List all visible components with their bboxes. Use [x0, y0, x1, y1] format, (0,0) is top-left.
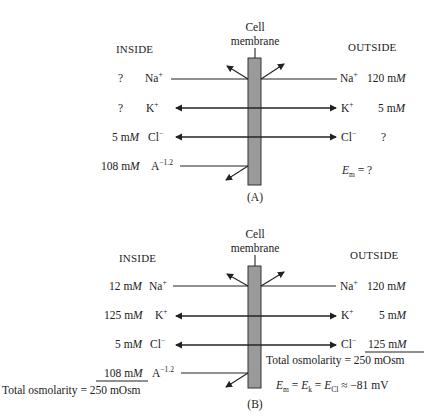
na-blocked-arrow-left	[227, 274, 248, 286]
membrane-label-line2: membrane	[231, 242, 280, 254]
panel-b: Cell membrane INSIDE OUTSIDE 12 mM Na+ N…	[2, 228, 424, 411]
k-ion-inside: K+	[155, 307, 168, 321]
na-blocked-arrow-right	[261, 64, 284, 79]
na-ion-outside: Na+	[340, 278, 358, 292]
na-outside-conc: 120 mM	[367, 280, 407, 292]
k-inside-conc: ?	[118, 102, 123, 114]
inside-total-osmolarity: Total osmolarity = 250 mOsm	[2, 384, 141, 397]
outside-header: OUTSIDE	[350, 249, 399, 261]
cl-ion-outside: Cl−	[341, 336, 356, 350]
cl-ion-inside: Cl−	[150, 336, 165, 350]
na-ion-outside: Na+	[340, 70, 358, 84]
cl-inside-conc: 5 mM	[115, 338, 144, 350]
membrane-diagram: Cell membrane INSIDE OUTSIDE ? Na+ Na+ 1…	[0, 0, 447, 417]
a-inside-conc: 108 mM	[104, 367, 144, 379]
na-blocked-arrow-right	[261, 272, 284, 286]
membrane-potential-equation: Em = Ek = ECl ≈ −81 mV	[275, 379, 389, 394]
k-ion-inside: K+	[146, 100, 159, 114]
membrane-label-line1: Cell	[245, 228, 264, 240]
outside-total-osmolarity: Total osmolarity = 250 mOsm	[266, 354, 405, 367]
k-ion-outside: K+	[341, 307, 354, 321]
na-ion-inside: Na+	[145, 70, 163, 84]
inside-header: INSIDE	[116, 43, 153, 55]
k-outside-conc: 5 mM	[379, 309, 408, 321]
k-inside-conc: 125 mM	[104, 309, 144, 321]
panel-a: Cell membrane INSIDE OUTSIDE ? Na+ Na+ 1…	[101, 21, 407, 204]
a-inside-conc: 108 mM	[101, 160, 141, 172]
cl-outside-conc: ?	[381, 131, 386, 143]
na-ion-inside: Na+	[149, 278, 167, 292]
k-outside-conc: 5 mM	[378, 102, 407, 114]
cl-inside-conc: 5 mM	[112, 131, 141, 143]
cell-membrane	[248, 266, 261, 388]
cl-outside-conc: 125 mM	[368, 338, 408, 350]
outside-header: OUTSIDE	[348, 41, 397, 53]
a-ion-inside: A−1.2	[152, 365, 174, 379]
na-inside-conc: 12 mM	[109, 280, 143, 292]
cl-ion-outside: Cl−	[341, 129, 356, 143]
na-blocked-arrow-left	[227, 66, 248, 79]
membrane-label-line2: membrane	[231, 35, 280, 47]
membrane-label-line1: Cell	[245, 21, 264, 33]
cl-ion-inside: Cl−	[148, 129, 163, 143]
na-inside-conc: ?	[118, 72, 123, 84]
cell-membrane	[248, 58, 261, 185]
panel-b-label: (B)	[247, 398, 263, 411]
k-ion-outside: K+	[341, 100, 354, 114]
a-blocked-arrow	[226, 166, 248, 180]
panel-a-label: (A)	[247, 191, 263, 204]
inside-header: INSIDE	[119, 252, 156, 264]
a-blocked-arrow	[226, 373, 248, 387]
na-outside-conc: 120 mM	[367, 72, 407, 84]
a-ion-inside: A−1.2	[151, 158, 173, 172]
membrane-potential: Em = ?	[341, 164, 372, 179]
